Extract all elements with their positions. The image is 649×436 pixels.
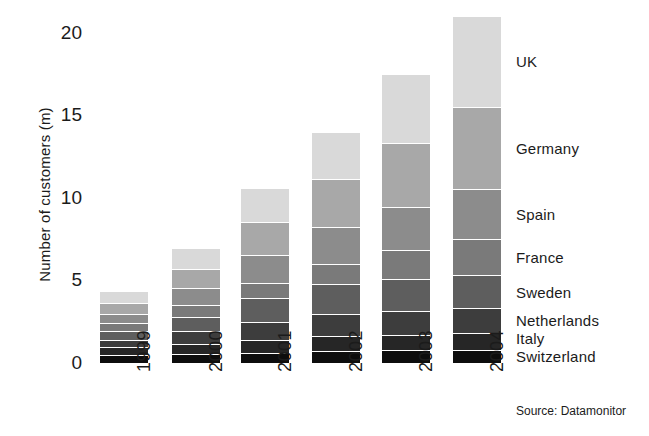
- y-axis-tick-10: 10: [28, 188, 82, 207]
- x-axis-tick-2004: 2004: [487, 312, 508, 372]
- legend: UKGermanySpainFranceSwedenNetherlandsIta…: [516, 0, 649, 436]
- legend-entry-uk[interactable]: UK: [516, 53, 537, 70]
- y-axis-tick-labels: 20151050: [24, 0, 82, 436]
- legend-entry-spain[interactable]: Spain: [516, 206, 555, 223]
- x-axis-tick-labels: 199920002001200220032004: [98, 0, 518, 436]
- source-note: Source: Datamonitor: [516, 404, 626, 418]
- legend-entry-germany[interactable]: Germany: [516, 140, 579, 157]
- x-axis-tick-2002: 2002: [346, 312, 367, 372]
- legend-entry-france[interactable]: France: [516, 249, 564, 266]
- legend-entry-italy[interactable]: Italy: [516, 330, 545, 347]
- y-axis-tick-5: 5: [28, 270, 82, 289]
- legend-entry-sweden[interactable]: Sweden: [516, 284, 571, 301]
- x-axis-tick-1999: 1999: [134, 312, 155, 372]
- y-axis-tick-15: 15: [28, 105, 82, 124]
- stacked-bar-chart: Number of customers (m) 20151050 1999200…: [0, 0, 649, 436]
- y-axis-tick-20: 20: [28, 23, 82, 42]
- y-axis-tick-0: 0: [28, 353, 82, 372]
- x-axis-tick-2001: 2001: [275, 312, 296, 372]
- legend-entry-switzerland[interactable]: Switzerland: [516, 348, 596, 365]
- x-axis-tick-2000: 2000: [206, 312, 227, 372]
- legend-entry-netherlands[interactable]: Netherlands: [516, 312, 599, 329]
- x-axis-tick-2003: 2003: [416, 312, 437, 372]
